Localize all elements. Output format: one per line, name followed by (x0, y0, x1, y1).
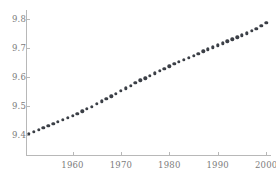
x-tick-mark (73, 152, 74, 155)
y-tick-label: 9.8 (12, 14, 26, 24)
x-tick-mark (218, 152, 219, 155)
y-tick-label: 9.5 (12, 101, 26, 111)
data-point (168, 65, 171, 68)
data-point (197, 52, 200, 55)
data-point (187, 56, 190, 59)
data-point (202, 50, 205, 53)
x-tick-mark (266, 152, 267, 155)
x-tick-label: 1960 (61, 160, 83, 170)
data-point (139, 79, 142, 82)
data-point (42, 126, 45, 129)
data-point (85, 107, 88, 110)
data-point (260, 24, 263, 27)
data-point (124, 87, 127, 90)
data-point (172, 62, 175, 65)
data-point (216, 44, 219, 47)
data-point (110, 94, 113, 97)
data-point (255, 27, 258, 30)
data-point (105, 97, 108, 100)
data-point (177, 60, 180, 63)
data-point (27, 132, 30, 135)
x-tick-mark (121, 152, 122, 155)
data-point (61, 118, 64, 121)
data-point (240, 34, 243, 37)
data-point (211, 46, 214, 49)
x-tick-label: 1980 (158, 160, 180, 170)
data-point (71, 114, 74, 117)
x-axis-spine (26, 155, 271, 156)
data-point (66, 116, 69, 119)
data-point (221, 42, 224, 45)
data-point (192, 54, 195, 57)
chart-figure: 9.49.59.69.79.8 19601970198019902000 (0, 0, 276, 183)
data-point (143, 76, 146, 79)
data-point (32, 130, 35, 133)
y-tick-label: 9.4 (12, 130, 26, 140)
data-point (250, 29, 253, 32)
data-point (206, 48, 209, 51)
data-point (153, 72, 156, 75)
data-point (134, 81, 137, 84)
y-tick-label: 9.6 (12, 72, 26, 82)
data-point (231, 38, 234, 41)
y-tick-mark (27, 106, 30, 107)
data-point (158, 69, 161, 72)
data-point (148, 74, 151, 77)
data-point (37, 128, 40, 131)
data-point (245, 31, 248, 34)
data-point (163, 67, 166, 70)
y-tick-label: 9.7 (12, 43, 26, 53)
x-tick-label: 2000 (255, 160, 276, 170)
data-point (90, 105, 93, 108)
data-point (114, 92, 117, 95)
data-point (264, 21, 267, 24)
y-tick-mark (27, 77, 30, 78)
data-point (80, 110, 83, 113)
y-tick-mark (27, 19, 30, 20)
data-point (76, 112, 79, 115)
scatter-plot-area: 9.49.59.69.79.8 19601970198019902000 (0, 0, 276, 183)
data-point (235, 36, 238, 39)
x-tick-label: 1970 (110, 160, 132, 170)
data-point (95, 102, 98, 105)
data-point (129, 84, 132, 87)
data-point (226, 40, 229, 43)
x-tick-mark (169, 152, 170, 155)
x-tick-label: 1990 (207, 160, 229, 170)
data-point (51, 122, 54, 125)
data-point (182, 58, 185, 61)
data-point (100, 100, 103, 103)
data-point (47, 124, 50, 127)
data-point (119, 89, 122, 92)
y-tick-mark (27, 48, 30, 49)
data-point (56, 120, 59, 123)
